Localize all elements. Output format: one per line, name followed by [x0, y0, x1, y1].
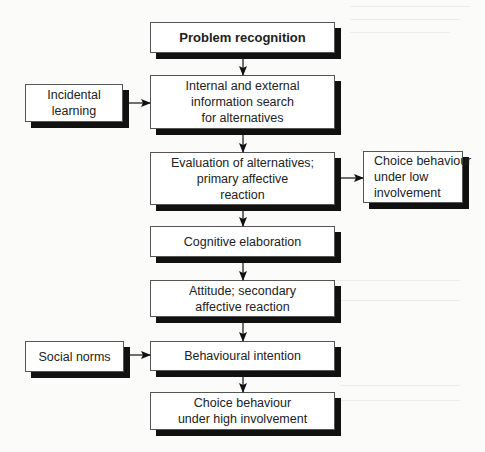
- node-label-line: involvement: [374, 185, 441, 201]
- node-label-line: reaction: [220, 187, 264, 203]
- node-label-line: Behavioural intention: [184, 348, 301, 364]
- background-texture-line: [340, 400, 460, 401]
- node-choice-high-involvement: Choice behaviour under high involvement: [150, 392, 335, 430]
- node-label-line: for alternatives: [202, 110, 284, 126]
- node-label-line: under high involvement: [178, 411, 307, 427]
- node-attitude: Attitude; secondary affective reaction: [150, 280, 335, 317]
- node-label-line: learning: [52, 103, 96, 119]
- node-label-line: under low: [374, 169, 428, 185]
- node-label-line: Choice behaviour: [194, 395, 291, 411]
- node-label-line: Incidental: [47, 87, 101, 103]
- background-texture-line: [350, 32, 450, 33]
- background-texture-line: [350, 6, 470, 7]
- node-choice-low-involvement: Choice behaviour under low involvement: [363, 151, 463, 203]
- node-social-norms: Social norms: [25, 341, 124, 372]
- node-label-line: Cognitive elaboration: [184, 234, 301, 250]
- node-label-line: Internal and external: [186, 78, 300, 94]
- node-evaluation-of-alternatives: Evaluation of alternatives; primary affe…: [150, 152, 335, 205]
- background-texture-line: [340, 385, 460, 386]
- node-label-line: Social norms: [38, 349, 110, 365]
- node-problem-recognition: Problem recognition: [150, 22, 335, 53]
- node-label-line: Problem recognition: [179, 30, 305, 46]
- node-cognitive-elaboration: Cognitive elaboration: [150, 226, 335, 257]
- node-information-search: Internal and external information search…: [150, 75, 335, 129]
- background-texture-line: [340, 300, 460, 301]
- node-label-line: affective reaction: [195, 299, 289, 315]
- node-label-line: Evaluation of alternatives;: [171, 155, 314, 171]
- node-behavioural-intention: Behavioural intention: [150, 341, 335, 371]
- background-texture-line: [350, 19, 460, 20]
- node-label-line: primary affective: [197, 171, 288, 187]
- node-label-line: Attitude; secondary: [189, 283, 296, 299]
- node-incidental-learning: Incidental learning: [25, 84, 123, 122]
- node-label-line: Choice behaviour: [374, 153, 471, 169]
- node-label-line: information search: [191, 94, 294, 110]
